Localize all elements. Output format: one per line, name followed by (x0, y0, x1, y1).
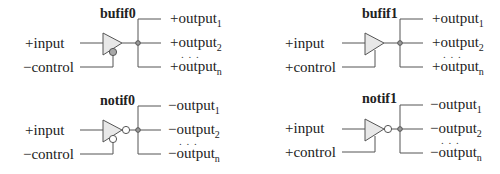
control-inversion-bubble-icon (109, 135, 116, 142)
gate-bufif1: bufif1 +input +control +output1 +output2… (285, 6, 484, 77)
control-wire (342, 50, 375, 67)
output-label-n: −outputn (430, 144, 482, 163)
control-inversion-bubble-icon (109, 48, 116, 55)
output-label-n: −outputn (168, 145, 220, 164)
output-inversion-bubble-icon (122, 126, 129, 133)
control-label: −control (23, 59, 74, 75)
gate-title: bufif1 (362, 6, 398, 21)
output-label-1: +output1 (170, 10, 222, 29)
gate-title: notif1 (362, 91, 397, 106)
control-wire (80, 56, 113, 67)
output-label-1: −output1 (168, 97, 220, 116)
control-label: +control (285, 144, 336, 160)
input-label: +input (285, 35, 325, 51)
junction-dot-icon (398, 127, 403, 132)
gate-title: bufif0 (100, 6, 136, 21)
gate-notif1: notif1 +input +control −output1 −output2… (285, 91, 482, 163)
input-label: +input (285, 120, 325, 136)
input-label: +input (25, 122, 65, 138)
gate-notif0: notif0 +input −control −output1 −output2… (23, 93, 220, 164)
junction-dot-icon (136, 128, 141, 133)
tristate-gates-diagram: bufif0 +input −control +output1 +output2… (0, 0, 500, 174)
control-label: −control (23, 146, 74, 162)
gate-title: notif0 (100, 93, 135, 108)
output-label-n: +outputn (170, 58, 222, 77)
control-wire (80, 143, 113, 154)
output-label-1: +output1 (432, 10, 484, 29)
junction-dot-icon (398, 41, 403, 46)
input-label: +input (25, 35, 65, 51)
output-label-n: +outputn (432, 58, 484, 77)
gate-bufif0: bufif0 +input −control +output1 +output2… (23, 6, 222, 77)
output-inversion-bubble-icon (384, 125, 391, 132)
control-label: +control (285, 59, 336, 75)
junction-dot-icon (136, 41, 141, 46)
output-label-1: −output1 (430, 96, 482, 115)
